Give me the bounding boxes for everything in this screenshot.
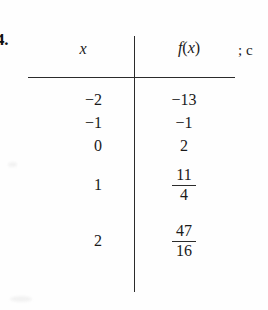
fraction-numerator: 11 <box>174 167 193 185</box>
column-header-x: x <box>60 40 106 58</box>
cell-fx: 2 <box>120 137 268 155</box>
trailing-clipped-text: ; c <box>238 42 253 59</box>
fraction-denominator: 4 <box>178 186 190 204</box>
fraction-denominator: 16 <box>174 242 194 260</box>
table-row: −1 −1 <box>0 111 268 134</box>
cell-fx: −13 <box>120 91 268 109</box>
cell-fx: 11 4 <box>120 167 268 203</box>
scan-artifact-bottom <box>10 296 32 302</box>
fraction-numerator: 47 <box>174 223 194 241</box>
cell-x: −1 <box>0 114 120 132</box>
exercise-number: 4. <box>0 30 8 50</box>
function-variable: x <box>188 39 195 56</box>
table-row: 2 47 16 <box>0 213 268 269</box>
cell-x: 2 <box>0 232 120 250</box>
table-row: 0 2 <box>0 134 268 157</box>
cell-x: −2 <box>0 91 120 109</box>
table-row: −2 −13 <box>0 88 268 111</box>
column-header-fx: f(x) <box>155 39 223 57</box>
cell-fx: 47 16 <box>120 223 268 259</box>
fraction-value: 47 16 <box>172 223 196 259</box>
cell-x: 1 <box>0 176 120 194</box>
close-paren: ) <box>195 39 200 56</box>
cell-fx: −1 <box>120 114 268 132</box>
table-row: 1 11 4 <box>0 157 268 213</box>
table-header-rule <box>28 77 235 78</box>
cell-x: 0 <box>0 137 120 155</box>
fraction-value: 11 4 <box>172 167 196 203</box>
table-body: −2 −13 −1 −1 0 2 1 11 4 2 47 16 <box>0 88 268 269</box>
